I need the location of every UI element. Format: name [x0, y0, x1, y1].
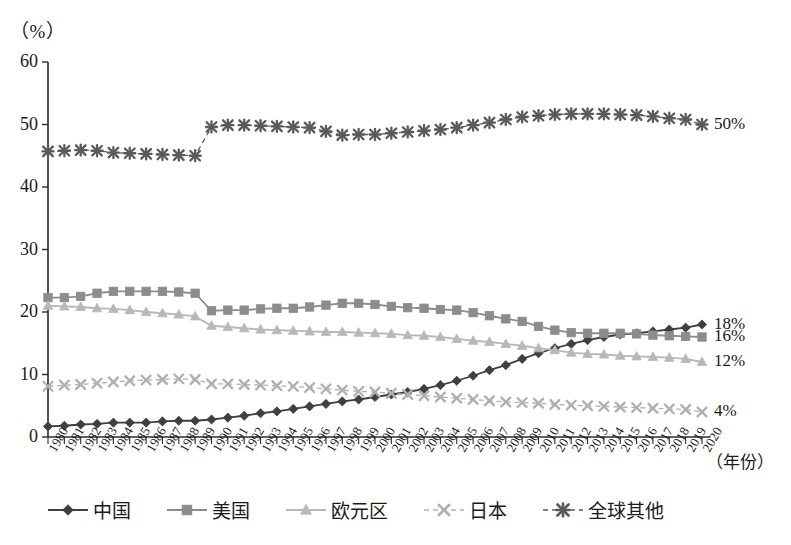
marker-asterisk	[353, 129, 364, 140]
marker-x	[567, 401, 576, 410]
marker-diamond	[305, 402, 314, 411]
marker-asterisk	[566, 108, 577, 119]
marker-diamond	[518, 354, 527, 363]
marker-asterisk	[108, 147, 119, 158]
marker-square	[182, 505, 192, 515]
marker-asterisk	[141, 148, 152, 159]
legend-marker-triangle-icon	[284, 499, 328, 521]
marker-asterisk	[42, 146, 53, 157]
marker-asterisk	[337, 130, 348, 141]
marker-diamond	[174, 416, 183, 425]
y-tick-label: 60	[4, 51, 38, 72]
marker-square	[600, 329, 608, 337]
marker-asterisk	[402, 126, 413, 137]
chart-legend: 中国美国欧元区日本全球其他	[46, 496, 746, 523]
marker-square	[354, 299, 362, 307]
marker-square	[649, 331, 657, 339]
marker-diamond	[452, 376, 461, 385]
marker-square	[518, 317, 526, 325]
y-tick-label: 30	[4, 239, 38, 260]
marker-square	[616, 329, 624, 337]
marker-square	[632, 330, 640, 338]
marker-square	[534, 322, 542, 330]
marker-square	[469, 308, 477, 316]
legend-item-2[interactable]: 欧元区	[284, 496, 388, 523]
series-end-label: 16%	[714, 326, 745, 346]
marker-asterisk	[680, 114, 691, 125]
marker-asterisk	[468, 120, 479, 131]
marker-asterisk	[631, 110, 642, 121]
legend-item-0[interactable]: 中国	[46, 496, 131, 523]
marker-x	[439, 504, 449, 514]
marker-diamond	[485, 366, 494, 375]
marker-asterisk	[239, 120, 250, 131]
marker-asterisk	[255, 120, 266, 131]
marker-square	[567, 328, 575, 336]
marker-asterisk	[557, 503, 570, 516]
series-end-label: 50%	[714, 114, 745, 134]
marker-diamond	[436, 381, 445, 390]
y-tick-label: 0	[4, 426, 38, 447]
y-tick-label: 10	[4, 364, 38, 385]
marker-square	[142, 287, 150, 295]
marker-asterisk	[288, 121, 299, 132]
marker-diamond	[158, 417, 167, 426]
marker-x	[207, 379, 216, 388]
legend-item-3[interactable]: 日本	[422, 496, 507, 523]
marker-diamond	[272, 407, 281, 416]
marker-asterisk	[696, 119, 707, 130]
marker-diamond	[43, 422, 52, 431]
marker-square	[420, 304, 428, 312]
series-end-label: 4%	[714, 401, 737, 421]
marker-diamond	[289, 404, 298, 413]
marker-square	[93, 289, 101, 297]
y-tick-label: 50	[4, 114, 38, 135]
marker-asterisk	[419, 125, 430, 136]
marker-asterisk	[484, 117, 495, 128]
marker-square	[126, 287, 134, 295]
marker-square	[371, 300, 379, 308]
marker-asterisk	[59, 145, 70, 156]
legend-label: 美国	[212, 496, 250, 523]
marker-asterisk	[582, 108, 593, 119]
marker-square	[273, 304, 281, 312]
marker-asterisk	[500, 114, 511, 125]
marker-asterisk	[320, 126, 331, 137]
marker-square	[207, 307, 215, 315]
marker-diamond	[191, 416, 200, 425]
marker-diamond	[240, 411, 249, 420]
marker-asterisk	[549, 109, 560, 120]
marker-square	[240, 306, 248, 314]
marker-square	[485, 312, 493, 320]
marker-asterisk	[304, 122, 315, 133]
marker-square	[583, 329, 591, 337]
series-end-label: 12%	[714, 351, 745, 371]
marker-diamond	[256, 409, 265, 418]
marker-square	[387, 302, 395, 310]
marker-diamond	[223, 413, 232, 422]
legend-item-4[interactable]: 全球其他	[541, 496, 664, 523]
legend-marker-diamond-icon	[46, 499, 90, 521]
chart-figure: （%） （年份） 0102030405060 19801981198219831…	[0, 0, 791, 545]
marker-asterisk	[386, 128, 397, 139]
marker-square	[502, 315, 510, 323]
marker-square	[109, 287, 117, 295]
legend-label: 日本	[469, 496, 507, 523]
marker-asterisk	[271, 121, 282, 132]
marker-square	[665, 332, 673, 340]
marker-square	[175, 288, 183, 296]
legend-item-1[interactable]: 美国	[165, 496, 250, 523]
marker-diamond	[63, 504, 74, 515]
marker-square	[681, 332, 689, 340]
marker-square	[77, 292, 85, 300]
marker-square	[698, 333, 706, 341]
marker-asterisk	[517, 111, 528, 122]
marker-square	[404, 303, 412, 311]
marker-asterisk	[190, 150, 201, 161]
chart-canvas	[0, 0, 791, 545]
marker-square	[551, 326, 559, 334]
marker-asterisk	[598, 108, 609, 119]
marker-asterisk	[664, 113, 675, 124]
marker-asterisk	[206, 121, 217, 132]
marker-asterisk	[647, 111, 658, 122]
